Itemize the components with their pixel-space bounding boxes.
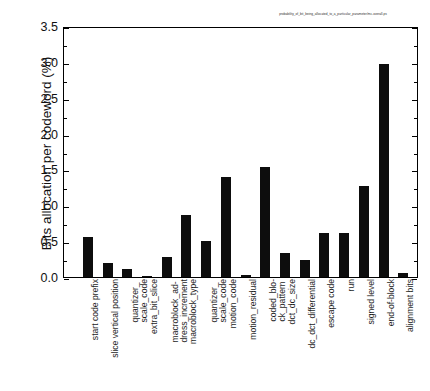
x-tick-label: coded_blo-ck_pattern	[269, 279, 286, 322]
bar	[221, 177, 231, 277]
x-tick-label-line: dct_dc_size	[287, 279, 297, 324]
x-tick-label-line: ck_pattern	[278, 279, 287, 322]
x-tick-label: end-of-block	[387, 279, 396, 326]
x-tick-label: run	[347, 279, 356, 291]
x-tick-label: alignment bits	[406, 279, 415, 332]
x-tick-label: escape code	[327, 279, 336, 328]
bar	[103, 263, 113, 277]
x-tick-label-line: slice vertical position	[110, 279, 120, 358]
x-tick-label-line: run	[346, 279, 356, 291]
x-tick-label: quantizer_scale_code	[210, 279, 227, 322]
bar-series	[64, 28, 417, 277]
bar	[142, 276, 152, 277]
bar	[300, 260, 310, 277]
x-tick-label: quantizer_scale_code	[131, 279, 148, 322]
x-tick-label-line: extra_bit_slice	[149, 279, 159, 334]
chart-figure: probability_of_bit_being_allocated_to_a_…	[0, 0, 430, 391]
y-tick-label: 2.0	[18, 128, 58, 142]
x-tick-label-line: motion_residual	[248, 279, 258, 340]
x-tick-label-line: dc_dct_differential	[307, 279, 317, 349]
bar	[359, 186, 369, 277]
x-tick-label-line: macroblock_type	[188, 279, 198, 344]
y-tick-label: 0.5	[18, 235, 58, 249]
y-tick-label: 1.5	[18, 163, 58, 177]
y-tick-label: 3.5	[18, 20, 58, 34]
y-tick-label: 3.0	[18, 56, 58, 70]
y-tick-label: 0.0	[18, 271, 58, 285]
x-tick-label: extra_bit_slice	[150, 279, 159, 334]
x-tick-label-line: alignment bits	[405, 279, 415, 332]
x-tick-label: macroblock_type	[189, 279, 198, 344]
bar	[122, 269, 132, 277]
x-tick-label-line: dress_increment	[179, 279, 188, 343]
x-tick-label-line: signed level	[366, 279, 376, 324]
x-tick-label-line: start code prefix	[90, 279, 100, 340]
x-tick-label: signed level	[367, 279, 376, 324]
bar	[162, 257, 172, 277]
x-tick-label-line: escape code	[326, 279, 336, 328]
bar	[241, 275, 251, 277]
bar	[280, 253, 290, 277]
x-tick-label: macroblock_ad-dress_increment	[171, 279, 188, 343]
bar	[83, 237, 93, 277]
x-tick-label-line: scale_code	[219, 279, 228, 322]
bar	[201, 241, 211, 277]
bar	[260, 167, 270, 277]
bar	[379, 64, 389, 277]
plot-area	[63, 27, 418, 278]
x-tick-label-line: motion_code	[228, 279, 238, 328]
bar	[181, 215, 191, 277]
x-tick-label: start code prefix	[91, 279, 100, 340]
x-tick-label-line: end-of-block	[386, 279, 396, 326]
x-tick-label: dc_dct_differential	[308, 279, 317, 349]
x-tick-label-line: scale_code	[140, 279, 149, 322]
bar	[398, 273, 408, 277]
x-tick-label: dct_dc_size	[288, 279, 297, 324]
bar	[319, 233, 329, 277]
y-tick-label: 1.0	[18, 199, 58, 213]
x-tick-label: motion_residual	[249, 279, 258, 340]
x-tick-label: slice vertical position	[111, 279, 120, 358]
x-axis-tick-labels: start code prefixslice vertical position…	[63, 279, 418, 391]
bar	[339, 233, 349, 277]
y-tick-label: 2.5	[18, 92, 58, 106]
figure-caption: probability_of_bit_being_allocated_to_a_…	[248, 12, 418, 16]
x-tick-label: motion_code	[229, 279, 238, 328]
